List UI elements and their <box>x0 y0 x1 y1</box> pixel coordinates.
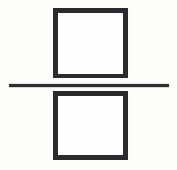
bottom-square-shape <box>53 91 128 160</box>
divider-line-shape <box>9 84 169 87</box>
glyph-canvas: Division sign formed by two hollow squar… <box>0 0 177 170</box>
top-square-shape <box>53 8 128 78</box>
